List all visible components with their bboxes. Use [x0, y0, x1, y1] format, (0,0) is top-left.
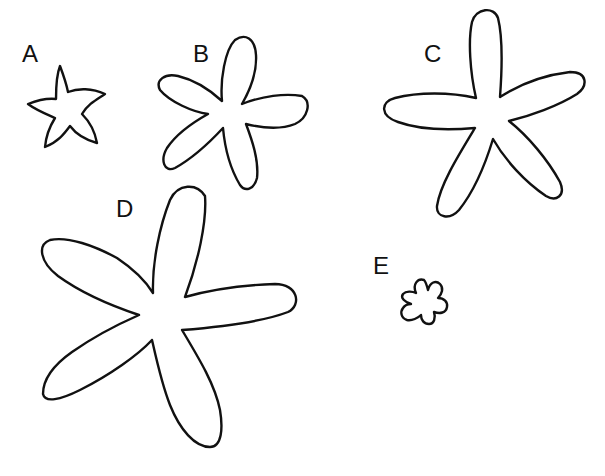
flower-e-shape: [401, 280, 447, 324]
label-c: C: [424, 42, 441, 66]
label-e: E: [373, 254, 389, 278]
flower-b-shape: [159, 37, 308, 189]
flower-d-shape: [42, 187, 296, 447]
label-b: B: [193, 42, 209, 66]
flower-c-shape: [384, 10, 584, 216]
label-a: A: [22, 42, 38, 66]
flower-a-shape: [28, 66, 105, 147]
flower-figure: [0, 0, 605, 476]
label-d: D: [116, 197, 133, 221]
